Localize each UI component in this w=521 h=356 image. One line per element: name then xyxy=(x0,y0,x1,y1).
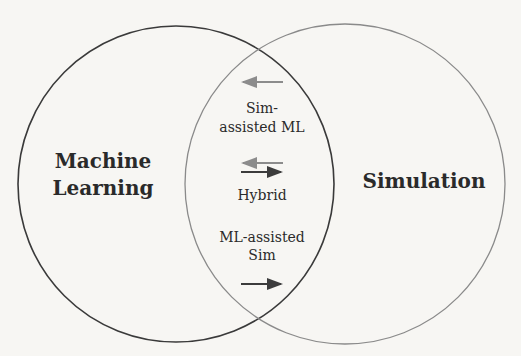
sim-assisted-ml-label-1: Sim- xyxy=(246,100,278,116)
ml-assisted-sim-label-2: Sim xyxy=(248,247,275,263)
machine-learning-label-1: Machine xyxy=(55,149,152,173)
machine-learning-label-2: Learning xyxy=(53,176,154,200)
hybrid-label: Hybrid xyxy=(237,187,286,203)
ml-assisted-sim-label-1: ML-assisted xyxy=(219,229,305,245)
simulation-label: Simulation xyxy=(362,169,485,193)
venn-diagram: Machine Learning Simulation Sim- assiste… xyxy=(0,0,521,356)
sim-assisted-ml-label-2: assisted ML xyxy=(219,119,304,135)
